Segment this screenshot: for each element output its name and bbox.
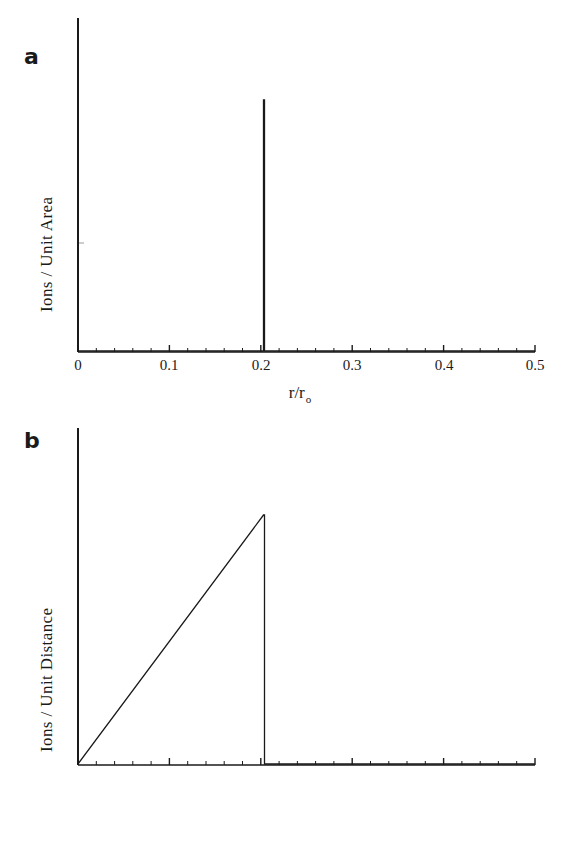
x-tick-label-a-1: 0.1	[160, 357, 179, 374]
x-axis-label-a-main: r/r	[289, 383, 305, 402]
plot-area-a	[0, 0, 569, 423]
x-axis-label-a-subscript: o	[305, 393, 312, 405]
x-tick-label-a-4: 0.4	[435, 357, 454, 374]
x-tick-label-a-5: 0.5	[526, 357, 545, 374]
panel-a: a Ions / Unit Area	[0, 0, 569, 423]
data-series-b	[78, 515, 535, 764]
figure-container: a Ions / Unit Area	[0, 0, 569, 846]
x-axis-label-a: r/ro	[289, 383, 312, 405]
x-tick-label-a-2: 0.2	[252, 357, 271, 374]
data-series-a	[78, 100, 535, 351]
x-tick-label-a-0: 0	[74, 357, 82, 374]
plot-area-b	[0, 410, 569, 846]
x-tick-label-a-3: 0.3	[343, 357, 362, 374]
panel-b: b Ions / Unit Distance	[0, 410, 569, 846]
